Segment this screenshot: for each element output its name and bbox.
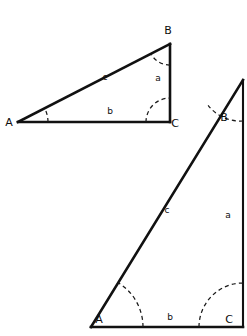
triangle-bottom-side-label-c: c (165, 205, 170, 215)
triangles-svg-canvas: A B C c a b A B C c a b (0, 0, 247, 336)
triangle-bottom-group: A B C c a b (91, 80, 243, 327)
triangle-top-vertex-label-b: B (164, 24, 172, 37)
triangle-top-side-c (18, 44, 170, 122)
triangle-bottom-angle-arc-c (199, 283, 243, 327)
triangle-bottom-side-label-a: a (225, 210, 231, 220)
triangle-top-vertex-label-c: C (171, 117, 179, 130)
triangle-top-angle-arc-c (146, 98, 170, 122)
triangle-top-side-label-a: a (155, 73, 161, 83)
triangle-top-vertex-label-a: A (5, 116, 13, 129)
triangle-top-angle-arc-a (45, 108, 48, 122)
triangle-top-group: A B C c a b (5, 24, 179, 130)
geometry-diagram: A B C c a b A B C c a b (0, 0, 247, 336)
triangle-bottom-vertex-label-b: B (220, 111, 228, 124)
triangle-top-side-label-b: b (107, 106, 113, 116)
triangle-bottom-vertex-label-a: A (95, 313, 103, 326)
triangle-bottom-angle-arc-a (118, 283, 143, 327)
triangle-bottom-side-label-b: b (167, 312, 173, 322)
triangle-bottom-vertex-label-c: C (225, 313, 233, 326)
triangle-top-side-label-c: c (103, 72, 108, 82)
triangle-top-angle-arc-b (151, 54, 170, 65)
